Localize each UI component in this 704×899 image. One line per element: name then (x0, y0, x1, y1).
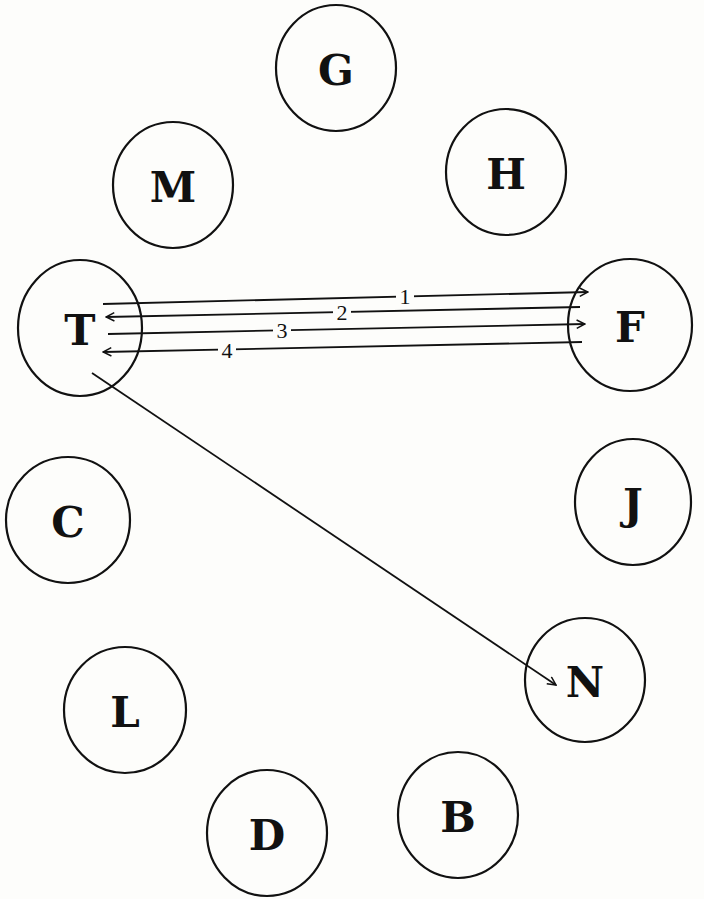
arrow-icon (92, 373, 556, 685)
edge-t-to-n (92, 373, 556, 685)
node-label: C (51, 498, 84, 547)
node-label: M (150, 163, 197, 212)
node-m: M (113, 122, 233, 248)
node-label: H (486, 150, 526, 199)
node-label: L (110, 688, 140, 737)
edge-f-to-t: 2 (106, 300, 580, 325)
node-label: D (249, 811, 285, 860)
edge-order-label: 2 (337, 300, 348, 325)
node-n: N (525, 618, 645, 742)
node-l: L (64, 647, 186, 773)
edge-order-label: 3 (277, 318, 288, 343)
nodes-layer: GMHTFCJLNDB (6, 5, 692, 896)
node-label: N (566, 658, 604, 707)
node-label: B (440, 793, 476, 842)
node-label: J (619, 480, 643, 529)
node-t: T (18, 260, 142, 396)
node-label: G (318, 46, 354, 95)
node-f: F (568, 259, 692, 391)
node-c: C (6, 457, 130, 583)
node-j: J (575, 439, 691, 565)
edge-order-label: 1 (400, 284, 411, 309)
arrow-icon (108, 324, 585, 334)
node-g: G (276, 5, 396, 131)
node-label: T (64, 306, 95, 355)
node-h: H (446, 109, 566, 235)
arrow-icon (103, 342, 582, 352)
node-b: B (398, 752, 518, 878)
node-d: D (207, 770, 327, 896)
edge-order-label: 4 (222, 338, 233, 363)
node-label: F (615, 303, 645, 352)
edge-f-to-t: 4 (103, 338, 582, 363)
edges-layer: 1234 (92, 284, 588, 686)
directed-graph-diagram: 1234 GMHTFCJLNDB (0, 0, 704, 899)
